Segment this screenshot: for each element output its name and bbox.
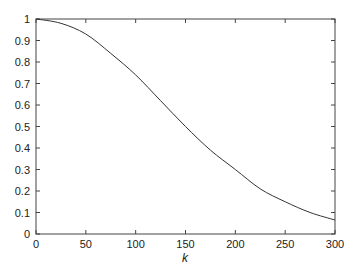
y-tick-label: 0.7	[15, 78, 30, 90]
y-tick-label: 0	[24, 228, 30, 240]
y-tick-label: 0.1	[15, 207, 30, 219]
y-tick-label: 0.8	[15, 56, 30, 68]
x-tick-label: 0	[33, 238, 39, 250]
y-tick-label: 0.5	[15, 121, 30, 133]
line-chart: 00.10.20.30.40.50.60.70.80.91 0501001502…	[0, 0, 356, 273]
y-tick-label: 0.2	[15, 185, 30, 197]
x-tick-label: 200	[226, 238, 244, 250]
y-tick-label: 0.3	[15, 164, 30, 176]
x-axis: 050100150200250300	[33, 19, 344, 250]
x-tick-label: 250	[276, 238, 294, 250]
x-tick-label: 300	[326, 238, 344, 250]
x-axis-label: k	[182, 251, 189, 265]
y-tick-label: 0.4	[15, 142, 30, 154]
data-line	[36, 19, 335, 220]
x-tick-label: 150	[176, 238, 194, 250]
y-axis: 00.10.20.30.40.50.60.70.80.91	[15, 13, 335, 240]
y-tick-label: 0.9	[15, 35, 30, 47]
y-tick-label: 0.6	[15, 99, 30, 111]
y-tick-label: 1	[24, 13, 30, 25]
x-tick-label: 100	[126, 238, 144, 250]
x-tick-label: 50	[80, 238, 92, 250]
